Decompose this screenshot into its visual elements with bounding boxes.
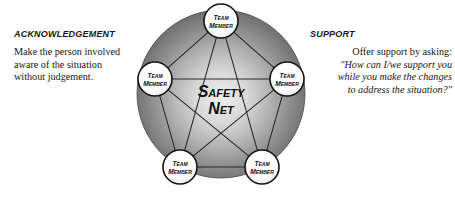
diagram-page: Acknowledgement Make the person involved…	[0, 0, 455, 199]
node-label-line-1: Team	[147, 72, 163, 79]
acknowledgement-line-3: without judgement.	[14, 71, 142, 84]
acknowledgement-body: Make the person involved aware of the si…	[14, 46, 142, 84]
support-heading: Support	[310, 26, 452, 40]
node-label-line-1: Team	[213, 14, 229, 21]
support-intro: Offer support by asking:	[310, 46, 452, 59]
node-label-line-1: Team	[172, 160, 188, 167]
safety-net-diagram: Safety Net TeamMemberTeamMemberTeamMembe…	[131, 0, 311, 199]
node-bottom-right: TeamMember	[245, 150, 279, 184]
support-panel: Support Offer support by asking: "How ca…	[310, 26, 452, 96]
support-body: Offer support by asking: "How can I/we s…	[310, 46, 452, 96]
node-label-line-2: Member	[209, 22, 233, 29]
node-label-line-1: Team	[279, 72, 295, 79]
node-label-line-1: Team	[254, 160, 270, 167]
acknowledgement-line-1: Make the person involved	[14, 46, 142, 59]
node-top: TeamMember	[204, 4, 238, 38]
node-bottom-left: TeamMember	[163, 150, 197, 184]
node-label-line-2: Member	[143, 80, 167, 87]
support-quote-line-3: to address the situation?"	[310, 84, 452, 97]
support-quote-line-1: "How can I/we support you	[310, 59, 452, 72]
node-label-line-2: Member	[250, 168, 274, 175]
node-label-line-2: Member	[168, 168, 192, 175]
node-left: TeamMember	[138, 62, 172, 96]
support-quote-line-2: while you make the changes	[310, 71, 452, 84]
center-label-line-2: Net	[208, 100, 235, 117]
node-label-line-2: Member	[275, 80, 299, 87]
safety-net-svg: Safety Net TeamMemberTeamMemberTeamMembe…	[131, 0, 311, 199]
acknowledgement-panel: Acknowledgement Make the person involved…	[14, 26, 142, 84]
node-right: TeamMember	[270, 62, 304, 96]
acknowledgement-line-2: aware of the situation	[14, 59, 142, 72]
center-label-line-1: Safety	[198, 83, 246, 100]
acknowledgement-heading: Acknowledgement	[14, 26, 142, 40]
